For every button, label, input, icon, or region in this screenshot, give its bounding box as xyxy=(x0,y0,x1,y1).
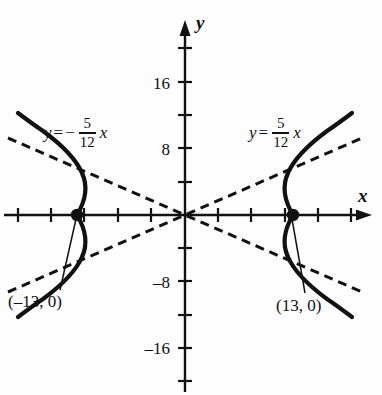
y-tick-label-16: 16 xyxy=(134,75,170,92)
equation-variable-x: x xyxy=(293,124,301,141)
equation-fraction: 5 12 xyxy=(272,116,289,150)
leader-line-right-vertex xyxy=(292,219,305,293)
fraction-denominator: 12 xyxy=(273,134,288,150)
equation-variable-x: x xyxy=(100,124,108,141)
asymptote-equation-negative-slope: y = − 5 12 x xyxy=(44,116,107,150)
y-tick-label-negative-8: –8 xyxy=(128,274,170,291)
asymptote-equation-positive-slope: y = 5 12 x xyxy=(249,116,301,150)
equation-lhs-y: y xyxy=(44,124,52,141)
hyperbola-figure xyxy=(0,0,382,395)
y-tick-label-negative-16: –16 xyxy=(128,340,170,357)
x-axis-arrowhead xyxy=(356,210,372,221)
right-vertex-coordinate-label: (13, 0) xyxy=(276,297,321,314)
equation-lhs-y: y xyxy=(249,124,257,141)
right-vertex-dot xyxy=(287,209,299,221)
fraction-numerator: 5 xyxy=(83,116,91,132)
axes-group xyxy=(4,20,372,392)
equation-minus-sign: − xyxy=(65,124,75,141)
fraction-denominator: 12 xyxy=(80,134,95,150)
equation-equals-sign: = xyxy=(54,124,64,141)
x-axis-label: x xyxy=(358,186,368,205)
equation-fraction: 5 12 xyxy=(79,116,96,150)
y-axis-label: y xyxy=(196,13,204,32)
y-tick-label-8: 8 xyxy=(134,141,170,158)
fraction-numerator: 5 xyxy=(277,116,285,132)
y-axis-arrowhead xyxy=(180,20,191,36)
equation-equals-sign: = xyxy=(259,124,269,141)
left-vertex-dot xyxy=(71,209,83,221)
left-vertex-coordinate-label: (–13, 0) xyxy=(8,293,62,310)
